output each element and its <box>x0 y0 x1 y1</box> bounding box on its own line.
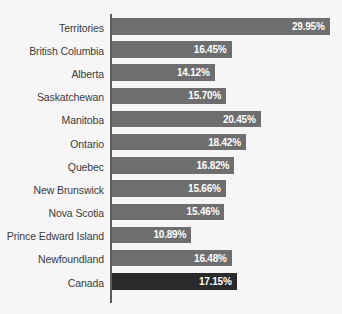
bar-track: 29.95% <box>112 18 330 35</box>
bar-row: Nova Scotia15.46% <box>0 202 342 225</box>
bar-row: British Columbia16.45% <box>0 39 342 62</box>
bar-row: Alberta14.12% <box>0 62 342 85</box>
bar-value-label: 16.45% <box>194 44 227 55</box>
bar: 16.45% <box>112 41 232 58</box>
bar-value-label: 16.82% <box>197 160 230 171</box>
bar-value-label: 10.89% <box>153 229 186 240</box>
bar: 20.45% <box>112 111 261 128</box>
category-label: Newfoundland <box>0 253 104 265</box>
bar-highlight: 17.15% <box>112 273 237 290</box>
category-label: Alberta <box>0 68 104 80</box>
plot-area: Territories29.95%British Columbia16.45%A… <box>0 0 342 314</box>
bar-value-label: 29.95% <box>292 21 325 32</box>
bar-row: Manitoba20.45% <box>0 109 342 132</box>
bar: 15.66% <box>112 180 226 197</box>
category-label: Saskatchewan <box>0 91 104 103</box>
category-label: British Columbia <box>0 45 104 57</box>
bar: 14.12% <box>112 64 215 81</box>
bar-row: Canada17.15% <box>0 271 342 294</box>
bar: 16.82% <box>112 157 234 174</box>
bar: 15.46% <box>112 204 224 221</box>
category-label: Canada <box>0 277 104 289</box>
bar-track: 16.48% <box>112 250 232 267</box>
category-label: Ontario <box>0 138 104 150</box>
bar-value-label: 14.12% <box>177 67 210 78</box>
bar-track: 15.46% <box>112 204 224 221</box>
bar-value-label: 18.42% <box>208 137 241 148</box>
bar-value-label: 15.70% <box>188 90 221 101</box>
bar-row: Prince Edward Island10.89% <box>0 225 342 248</box>
bar: 18.42% <box>112 134 246 151</box>
category-label: Nova Scotia <box>0 207 104 219</box>
category-label: Prince Edward Island <box>0 230 104 242</box>
bar-track: 15.70% <box>112 88 226 105</box>
bar: 10.89% <box>112 227 191 244</box>
bar-value-label: 17.15% <box>199 276 232 287</box>
bar-value-label: 20.45% <box>223 114 256 125</box>
bar-row: Territories29.95% <box>0 16 342 39</box>
bar-track: 20.45% <box>112 111 261 128</box>
bar: 15.70% <box>112 88 226 105</box>
bar-rows: Territories29.95%British Columbia16.45%A… <box>0 16 342 294</box>
category-label: Manitoba <box>0 114 104 126</box>
bar-value-label: 15.46% <box>187 206 220 217</box>
bar-track: 15.66% <box>112 180 226 197</box>
bar-track: 16.82% <box>112 157 234 174</box>
category-label: Quebec <box>0 161 104 173</box>
bar-track: 16.45% <box>112 41 232 58</box>
bar: 29.95% <box>112 18 330 35</box>
bar-row: Newfoundland16.48% <box>0 248 342 271</box>
bar-track: 10.89% <box>112 227 191 244</box>
category-label: New Brunswick <box>0 184 104 196</box>
bar-value-label: 15.66% <box>188 183 221 194</box>
bar: 16.48% <box>112 250 232 267</box>
bar-track: 17.15% <box>112 273 237 290</box>
bar-track: 14.12% <box>112 64 215 81</box>
bar-row: Ontario18.42% <box>0 132 342 155</box>
bar-value-label: 16.48% <box>194 253 227 264</box>
category-label: Territories <box>0 22 104 34</box>
bar-track: 18.42% <box>112 134 246 151</box>
bar-row: Quebec16.82% <box>0 155 342 178</box>
bar-row: New Brunswick15.66% <box>0 178 342 201</box>
bar-chart: Territories29.95%British Columbia16.45%A… <box>0 0 342 314</box>
bar-row: Saskatchewan15.70% <box>0 86 342 109</box>
